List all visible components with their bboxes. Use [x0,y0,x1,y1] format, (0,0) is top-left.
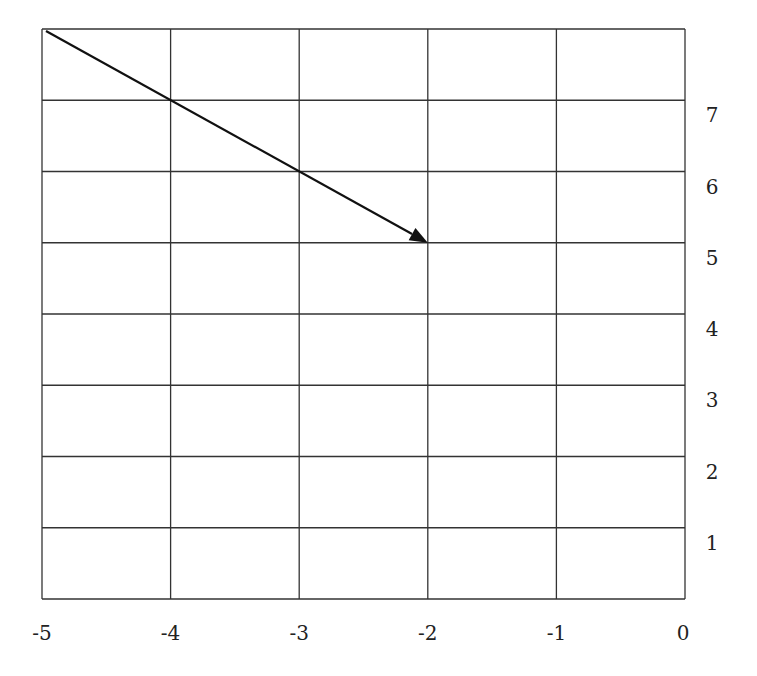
y-tick-label: 7 [706,103,719,127]
y-axis-labels: 1234567 [706,103,719,555]
x-tick-label: -4 [161,621,180,645]
x-tick-label: -2 [418,621,437,645]
coordinate-grid: -5-4-3-2-10 1234567 [0,0,757,676]
x-tick-label: 0 [677,621,690,645]
y-tick-label: 6 [706,175,719,199]
y-tick-label: 2 [706,460,719,484]
y-tick-label: 3 [706,388,719,412]
y-tick-label: 4 [706,317,719,341]
x-tick-label: -5 [32,621,51,645]
arrow-head-icon [409,228,428,243]
grid-lines [42,29,685,599]
x-tick-label: -3 [289,621,308,645]
arrow-shaft [46,31,412,234]
vector-arrow [46,31,428,243]
y-tick-label: 5 [706,246,719,270]
x-axis-labels: -5-4-3-2-10 [32,621,689,645]
y-tick-label: 1 [706,531,719,555]
x-tick-label: -1 [547,621,566,645]
